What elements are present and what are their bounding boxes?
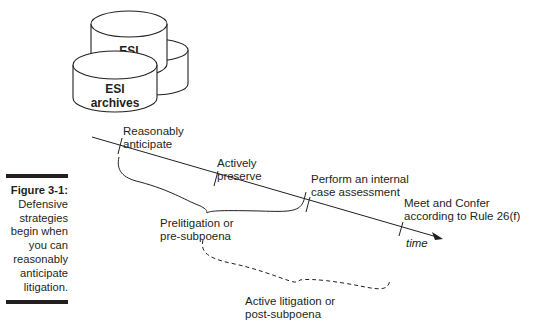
phase-label: post-subpoena: [245, 308, 322, 320]
milestone-label: preserve: [217, 170, 262, 182]
milestone-label: Reasonably: [123, 125, 184, 137]
tick-meet-confer: [399, 222, 403, 236]
arrowhead-icon: [432, 232, 443, 240]
milestone-label: Perform an internal: [311, 173, 409, 185]
phase-label: Active litigation or: [245, 295, 335, 307]
brace-active-litigation: [202, 240, 390, 289]
diagram-canvas: ESI ESI archives Reasonably anticipate A…: [0, 0, 533, 332]
milestone-label: Meet and Confer: [404, 197, 490, 209]
esi-archives-label-line1: ESI: [105, 82, 124, 96]
milestone-label: anticipate: [123, 138, 172, 150]
brace-prelitigation: [118, 157, 306, 213]
phase-label: pre-subpoena: [160, 230, 232, 242]
milestone-label: case assessment: [311, 186, 401, 198]
milestone-label: according to Rule 26(f): [404, 210, 521, 222]
milestone-label: Actively: [217, 157, 257, 169]
time-axis-label: time: [406, 237, 428, 249]
esi-archives-label-line2: archives: [91, 96, 140, 110]
phase-label: Prelitigation or: [160, 217, 234, 229]
